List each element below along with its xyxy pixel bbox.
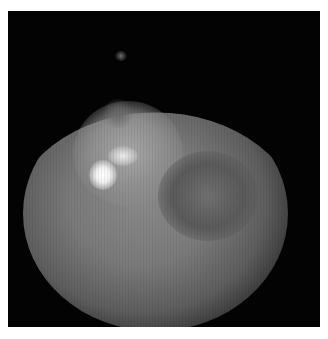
small-particle [115,51,127,61]
bright-spot [89,160,117,190]
neck-region [103,99,133,129]
bright-spot [108,146,138,166]
microscopy-image [8,11,320,327]
right-lobe [158,151,258,241]
